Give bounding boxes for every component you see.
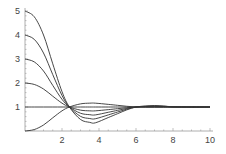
x-tick-label: 2 (59, 135, 64, 145)
y-tick-label: 2 (15, 78, 20, 88)
x-tick-label: 8 (170, 135, 175, 145)
y-tick-label: 3 (15, 54, 20, 64)
x-tick-label: 10 (205, 135, 215, 145)
x-tick-label: 4 (96, 135, 101, 145)
y-tick-label: 5 (15, 6, 20, 16)
series-line (25, 11, 210, 123)
series-line (25, 35, 210, 119)
axes (25, 8, 213, 131)
line-chart: 24681012345 (0, 0, 226, 154)
x-tick-label: 6 (133, 135, 138, 145)
y-tick-label: 1 (15, 102, 20, 112)
y-tick-label: 4 (15, 30, 20, 40)
curves (25, 11, 210, 131)
